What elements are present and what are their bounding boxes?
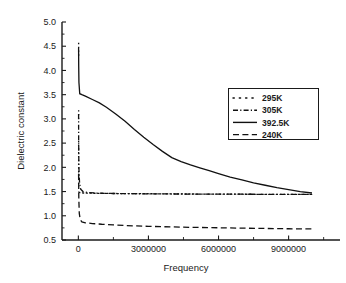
dielectric-constant-chart: 0.51.01.52.02.53.03.54.04.55.0 030000006… [0,0,346,283]
y-tick-label: 2.5 [43,138,56,148]
y-tick-label: 3.0 [43,114,56,124]
legend-label-295K: 295K [262,93,283,103]
y-tick-label: 2.0 [43,163,56,173]
chart-canvas: 0.51.01.52.02.53.03.54.04.55.0 030000006… [0,0,346,283]
x-tick-label: 6000000 [201,244,236,254]
x-axis-tick-labels: 0300000060000009000000 [76,244,306,254]
legend-label-240K: 240K [262,130,283,140]
legend-label-392.5K: 392.5K [262,118,290,128]
x-tick-label: 3000000 [131,244,166,254]
y-tick-label: 0.5 [43,235,56,245]
y-tick-label: 4.5 [43,41,56,51]
y-axis-tick-labels: 0.51.01.52.02.53.03.54.04.55.0 [43,17,56,245]
y-tick-label: 1.0 [43,211,56,221]
y-tick-label: 1.5 [43,187,56,197]
legend: 295K305K392.5K240K [229,89,319,140]
y-axis-title: Dielectric constant [15,92,26,170]
x-axis-title: Frequency [164,262,209,273]
legend-label-305K: 305K [262,105,283,115]
x-tick-label: 9000000 [271,244,306,254]
series-line-240K [79,174,312,229]
x-tick-label: 0 [76,244,81,254]
y-tick-label: 3.5 [43,90,56,100]
y-tick-label: 4.0 [43,66,56,76]
y-tick-label: 5.0 [43,17,56,27]
